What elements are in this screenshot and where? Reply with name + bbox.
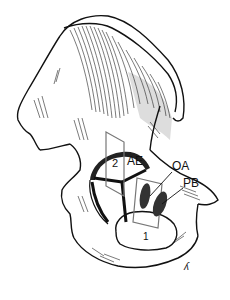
lower-hatching bbox=[78, 122, 200, 262]
pb-region bbox=[150, 190, 170, 219]
ilium-shading bbox=[128, 72, 172, 140]
label-oa: OA bbox=[172, 159, 189, 173]
label-plane-2: 2 bbox=[112, 157, 118, 169]
label-ae: AE bbox=[127, 154, 143, 168]
artist-signature: ʎ bbox=[183, 261, 190, 272]
label-plane-1: 1 bbox=[143, 231, 149, 242]
hip-bone-illustration: 2 AE OA PB 1 ʎ bbox=[0, 0, 230, 300]
label-pb: PB bbox=[183, 176, 199, 190]
